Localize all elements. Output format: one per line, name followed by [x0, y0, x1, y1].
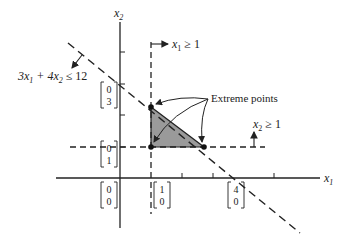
svg-text:0: 0 — [107, 196, 112, 207]
svg-text:0: 0 — [234, 196, 239, 207]
vector-label-0-1: 0 1 — [101, 141, 117, 167]
constraint-label-1: 3x1 + 4x2 ≤ 12 — [17, 69, 87, 85]
x2-axis: x2 — [113, 6, 125, 228]
extreme-point — [148, 104, 154, 110]
vector-label-0-0: 0 0 — [101, 182, 117, 208]
vector-label-0-3: 0 3 — [101, 82, 117, 108]
extreme-points-label: Extreme points — [211, 92, 278, 104]
svg-text:1: 1 — [107, 155, 112, 166]
x2-axis-label: x2 — [113, 6, 123, 22]
extreme-point — [148, 144, 154, 150]
x1-axis-label: x1 — [323, 171, 333, 187]
arrow-icon — [72, 55, 82, 68]
lp-feasible-region-diagram: x2 x1 3x1 + 4x2 ≤ 12 x1 ≥ 1 x2 ≥ 1 Extre… — [0, 0, 350, 241]
constraint-line-3x1-4x2 — [68, 43, 300, 233]
svg-text:1: 1 — [160, 184, 165, 195]
constraint-label-2: x1 ≥ 1 — [171, 37, 200, 53]
extreme-point — [201, 144, 207, 150]
svg-text:0: 0 — [107, 143, 112, 154]
feasible-region — [151, 107, 204, 147]
vector-label-1-0: 1 0 — [154, 182, 170, 208]
x1-axis: x1 — [56, 171, 333, 187]
constraint-label-3: x2 ≥ 1 — [252, 117, 281, 133]
svg-text:3: 3 — [107, 96, 112, 107]
svg-text:0: 0 — [160, 196, 165, 207]
svg-text:0: 0 — [107, 84, 112, 95]
svg-text:4: 4 — [234, 184, 239, 195]
svg-text:0: 0 — [107, 184, 112, 195]
